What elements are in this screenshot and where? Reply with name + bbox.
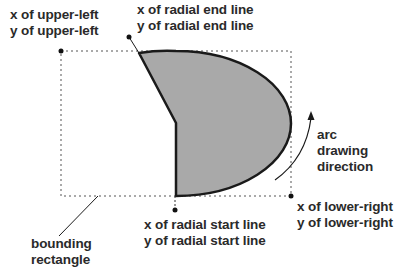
- arc-text: arc: [317, 127, 373, 143]
- radial-end-y-text: y of radial end line: [137, 18, 254, 34]
- bounding-leader-line: [59, 196, 98, 236]
- radial-start-dot: [173, 208, 178, 213]
- radial-start-x-text: x of radial start line: [144, 217, 266, 233]
- direction-text: direction: [317, 159, 373, 175]
- lower-right-x-text: x of lower-right: [297, 199, 393, 215]
- radial-end-x-text: x of radial end line: [137, 2, 254, 18]
- lower-right-dot: [289, 194, 294, 199]
- bounding-rectangle-label: bounding rectangle: [31, 236, 92, 268]
- upper-left-y-text: y of upper-left: [10, 23, 99, 39]
- radial-end-label: x of radial end line y of radial end lin…: [137, 2, 254, 34]
- drawing-text: drawing: [317, 143, 373, 159]
- radial-end-dot: [127, 35, 132, 40]
- upper-left-dot: [59, 49, 64, 54]
- bounding-text: bounding: [31, 236, 92, 252]
- rectangle-text: rectangle: [31, 252, 92, 268]
- pie-slice: [139, 51, 291, 196]
- lower-right-label: x of lower-right y of lower-right: [297, 199, 393, 231]
- upper-left-x-text: x of upper-left: [10, 7, 99, 23]
- radial-end-extension: [129, 37, 139, 53]
- upper-left-label: x of upper-left y of upper-left: [10, 7, 99, 39]
- lower-right-y-text: y of lower-right: [297, 215, 393, 231]
- arc-direction-label: arc drawing direction: [317, 127, 373, 175]
- radial-start-label: x of radial start line y of radial start…: [144, 217, 266, 249]
- arrowhead-icon: [308, 111, 315, 120]
- radial-start-y-text: y of radial start line: [144, 233, 266, 249]
